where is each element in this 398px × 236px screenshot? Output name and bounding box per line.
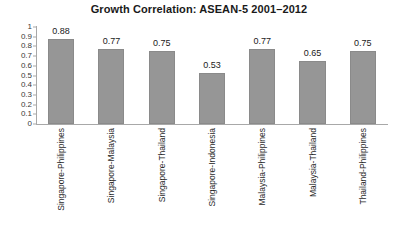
x-axis-category-label: Singapore-Malaysia [104, 128, 118, 232]
x-axis-category-label: Singapore-Philippines [54, 128, 68, 232]
y-axis-tick-label: 0.5 [21, 72, 32, 80]
y-axis-tick-mark [33, 56, 36, 57]
y-axis-tick-mark [33, 36, 36, 37]
y-axis-tick-mark [33, 46, 36, 47]
y-axis-tick-label: 0.2 [21, 101, 32, 109]
plot-area: 0.880.770.750.530.770.650.75 [36, 27, 388, 124]
bar-group: 0.88 [48, 27, 74, 124]
x-axis-category-label: Malaysia-Thailand [306, 128, 320, 232]
y-axis-tick-mark [33, 65, 36, 66]
bar-value-label: 0.88 [52, 27, 70, 36]
bar-value-label: 0.65 [304, 49, 322, 58]
y-axis-tick-mark [33, 104, 36, 105]
x-axis-category-label-text: Malaysia-Philippines [258, 128, 267, 205]
y-axis-tick-mark [33, 124, 36, 125]
y-axis-tick-mark [33, 94, 36, 95]
y-axis: 10.90.80.70.60.50.40.30.20.10 [0, 0, 36, 236]
x-axis-category-label: Thailand-Philippines [356, 128, 370, 232]
y-axis-tick-label: 0.4 [21, 81, 32, 89]
y-axis-tick-label: 0.8 [21, 42, 32, 50]
bar-group: 0.75 [350, 27, 376, 124]
chart-title: Growth Correlation: ASEAN-5 2001–2012 [0, 3, 398, 15]
bar-group: 0.77 [249, 27, 275, 124]
x-axis-category-label-text: Malaysia-Thailand [308, 128, 317, 197]
x-axis-category-label-text: Singapore-Philippines [57, 128, 66, 211]
x-axis-category-label: Malaysia-Philippines [255, 128, 269, 232]
bar[interactable] [249, 49, 275, 124]
x-axis-category-label-text: Singapore-Malaysia [107, 128, 116, 203]
bar[interactable] [98, 49, 124, 124]
x-axis-category-label: Singapore-Indonesia [205, 128, 219, 232]
x-axis-category-label-text: Thailand-Philippines [359, 128, 368, 205]
y-axis-tick-mark [33, 75, 36, 76]
y-axis-tick-label: 0.3 [21, 91, 32, 99]
bar-value-label: 0.77 [103, 37, 121, 46]
chart-container: Growth Correlation: ASEAN-5 2001–2012 10… [0, 0, 398, 236]
y-axis-tick-label: 1 [28, 23, 32, 31]
bar-value-label: 0.75 [153, 39, 171, 48]
bar-group: 0.65 [299, 27, 325, 124]
bar-value-label: 0.53 [203, 61, 221, 70]
y-axis-tick-label: 0.1 [21, 110, 32, 118]
bar[interactable] [48, 39, 74, 124]
y-axis-tick-label: 0 [28, 120, 32, 128]
y-axis-tick-mark [33, 114, 36, 115]
bar[interactable] [149, 51, 175, 124]
bar-value-label: 0.75 [354, 39, 372, 48]
bar[interactable] [299, 61, 325, 124]
x-axis-line [36, 124, 388, 125]
y-axis-tick-label: 0.9 [21, 33, 32, 41]
y-axis-tick-mark [33, 27, 36, 28]
x-axis-category-label-text: Singapore-Indonesia [208, 128, 217, 206]
x-axis-category-label-text: Singapore-Thailand [157, 128, 166, 202]
bar[interactable] [199, 73, 225, 124]
y-axis-tick-label: 0.6 [21, 62, 32, 70]
bar-group: 0.75 [149, 27, 175, 124]
bar-group: 0.77 [98, 27, 124, 124]
y-axis-tick-mark [33, 85, 36, 86]
bar[interactable] [350, 51, 376, 124]
bar-group: 0.53 [199, 27, 225, 124]
x-axis-category-label: Singapore-Thailand [155, 128, 169, 232]
bar-value-label: 0.77 [254, 37, 272, 46]
y-axis-tick-label: 0.7 [21, 52, 32, 60]
